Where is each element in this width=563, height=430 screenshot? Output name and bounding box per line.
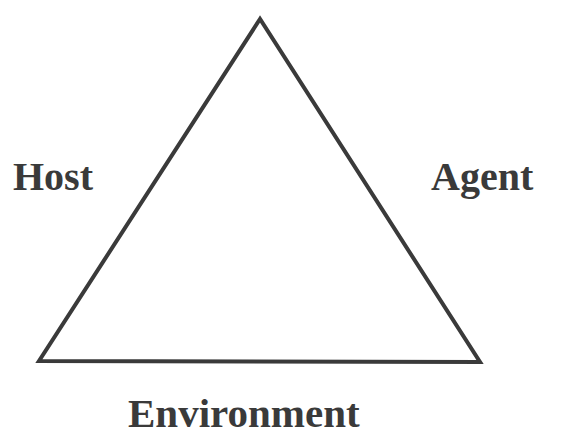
triangle-shape: [39, 19, 480, 362]
environment-label: Environment: [128, 393, 360, 430]
agent-label: Agent: [431, 157, 533, 197]
host-label: Host: [13, 157, 93, 197]
triangle-diagram: [0, 0, 563, 430]
